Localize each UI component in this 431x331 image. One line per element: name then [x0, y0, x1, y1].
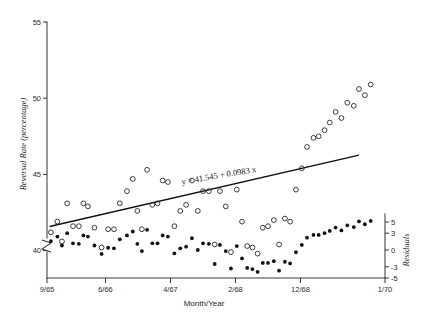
- scatter-point-open: [305, 145, 310, 150]
- scatter-point-open: [112, 227, 117, 232]
- y2-axis-tick-label: 3: [391, 229, 395, 238]
- scatter-point-open: [345, 100, 350, 105]
- y-axis-tick-label: 40: [33, 246, 41, 255]
- scatter-point-filled: [145, 228, 149, 232]
- scatter-point-open: [271, 218, 276, 223]
- scatter-point-filled: [288, 262, 292, 266]
- scatter-point-open: [294, 187, 299, 192]
- scatter-point-filled: [294, 250, 298, 254]
- scatter-point-open: [212, 242, 217, 247]
- scatter-point-open: [130, 177, 135, 182]
- x-axis-title: Month/Year: [184, 299, 225, 308]
- scatter-point-filled: [369, 219, 373, 223]
- scatter-point-open: [240, 219, 245, 224]
- scatter-point-filled: [266, 261, 270, 265]
- scatter-point-filled: [156, 241, 160, 245]
- scatter-point-filled: [323, 231, 327, 235]
- scatter-point-filled: [328, 229, 332, 233]
- scatter-point-filled: [363, 222, 367, 226]
- y2-axis-tick-label: 0: [391, 246, 395, 255]
- scatter-point-open: [99, 245, 104, 250]
- scatter-point-filled: [235, 244, 239, 248]
- scatter-point-open: [245, 244, 250, 249]
- scatter-point-open: [234, 187, 239, 192]
- scatter-point-open: [172, 224, 177, 229]
- scatter-point-filled: [300, 243, 304, 247]
- scatter-point-filled: [161, 234, 165, 238]
- scatter-point-filled: [224, 249, 228, 253]
- scatter-point-filled: [256, 270, 260, 274]
- scatter-point-open: [86, 204, 91, 209]
- scatter-point-open: [71, 224, 76, 229]
- y-axis-tick-label: 50: [33, 94, 41, 103]
- scatter-point-filled: [240, 257, 244, 261]
- scatter-point-open: [81, 201, 86, 206]
- y-axis-tick-label: 55: [33, 18, 41, 27]
- scatter-point-filled: [357, 220, 361, 224]
- scatter-point-open: [277, 242, 282, 247]
- scatter-point-open: [55, 219, 60, 224]
- scatter-point-open: [223, 204, 228, 209]
- scatter-point-open: [311, 135, 316, 140]
- scatter-plot-svg: 555045409/656/664/672/6812/681/70530-3-5…: [0, 0, 431, 331]
- scatter-point-open: [250, 245, 255, 250]
- y2-axis-tick-label: -5: [391, 274, 398, 283]
- scatter-point-open: [178, 209, 183, 214]
- scatter-point-open: [322, 128, 327, 133]
- y2-axis-title: Residuals: [401, 233, 411, 268]
- regression-fit-line: [50, 155, 359, 226]
- scatter-point-open: [166, 180, 171, 185]
- scatter-point-filled: [317, 233, 321, 237]
- scatter-point-filled: [82, 234, 86, 238]
- scatter-point-filled: [93, 244, 97, 248]
- scatter-point-filled: [312, 233, 316, 237]
- scatter-point-open: [260, 225, 265, 230]
- regression-equation: y = 41.545 + 0.0983 x: [181, 164, 258, 186]
- scatter-point-filled: [86, 235, 90, 239]
- x-axis-tick-label: 4/67: [163, 285, 178, 294]
- scatter-point-filled: [201, 241, 205, 245]
- scatter-point-filled: [340, 229, 344, 233]
- scatter-point-filled: [135, 242, 139, 246]
- scatter-point-open: [218, 189, 223, 194]
- y2-axis-tick-label: -3: [391, 263, 398, 272]
- scatter-point-open: [184, 202, 189, 207]
- scatter-point-open: [106, 227, 111, 232]
- scatter-point-open: [357, 87, 362, 92]
- scatter-point-open: [76, 224, 81, 229]
- scatter-point-filled: [118, 237, 122, 241]
- scatter-point-filled: [65, 231, 69, 235]
- scatter-point-open: [288, 219, 293, 224]
- scatter-point-open: [140, 227, 145, 232]
- scatter-point-filled: [100, 252, 104, 256]
- scatter-point-open: [229, 250, 234, 255]
- scatter-point-filled: [207, 242, 211, 246]
- scatter-point-open: [316, 134, 321, 139]
- scatter-point-filled: [60, 244, 64, 248]
- scatter-point-filled: [196, 248, 200, 252]
- x-axis-tick-label: 1/70: [378, 285, 393, 294]
- scatter-point-open: [266, 224, 271, 229]
- scatter-point-filled: [125, 234, 129, 238]
- scatter-point-filled: [178, 246, 182, 250]
- scatter-point-filled: [166, 235, 170, 239]
- y2-axis-tick-label: 5: [391, 218, 395, 227]
- scatter-point-open: [145, 167, 150, 172]
- scatter-point-open: [65, 201, 70, 206]
- scatter-point-filled: [131, 230, 135, 234]
- scatter-point-open: [362, 93, 367, 98]
- scatter-point-filled: [77, 242, 81, 246]
- scatter-point-filled: [261, 261, 265, 265]
- scatter-point-filled: [229, 267, 233, 271]
- scatter-point-filled: [140, 249, 144, 253]
- scatter-point-open: [255, 251, 260, 256]
- y-axis-tick-label: 45: [33, 170, 41, 179]
- scatter-point-open: [351, 103, 356, 108]
- scatter-point-filled: [345, 223, 349, 227]
- scatter-point-filled: [56, 235, 60, 239]
- scatter-point-filled: [352, 225, 356, 229]
- scatter-point-open: [117, 201, 122, 206]
- x-axis-tick-label: 6/66: [98, 285, 113, 294]
- scatter-point-filled: [245, 266, 249, 270]
- x-axis-tick-label: 2/68: [228, 285, 243, 294]
